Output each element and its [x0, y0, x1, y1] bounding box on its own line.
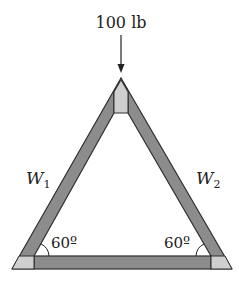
left-joint: [12, 256, 34, 269]
angle-arc-left-icon: [41, 244, 49, 256]
truss-diagram: 100 lb W1 W2 60º 60º: [0, 0, 239, 282]
member-label-w1: W1: [26, 168, 50, 191]
load-arrow-icon: [118, 35, 125, 73]
angle-arc-right-icon: [196, 244, 204, 256]
right-joint: [211, 256, 232, 269]
load-label: 100 lb: [96, 13, 147, 32]
angle-label-left: 60º: [51, 234, 77, 252]
member-bottom: [34, 256, 211, 269]
member-label-w2: W2: [196, 168, 220, 191]
apex-joint: [114, 80, 128, 113]
angle-label-right: 60º: [164, 234, 190, 252]
